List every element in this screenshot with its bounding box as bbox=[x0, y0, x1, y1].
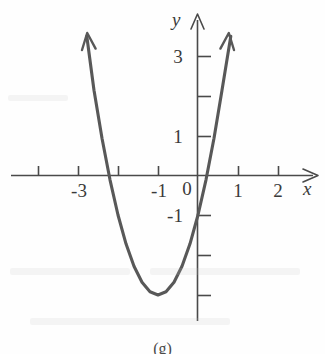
figure-parabola-graph: y x -3 -1 1 2 0 3 1 -1 (g) bbox=[0, 0, 325, 354]
graph-canvas bbox=[0, 0, 325, 354]
x-tick-label-minus1: -1 bbox=[144, 180, 174, 202]
origin-label: 0 bbox=[178, 178, 196, 200]
x-axis-ticks bbox=[39, 166, 279, 176]
parabola-curve bbox=[82, 33, 234, 295]
figure-caption: (g) bbox=[0, 340, 325, 354]
x-axis-label: x bbox=[303, 178, 311, 200]
x-tick-label-one: 1 bbox=[228, 180, 248, 202]
y-tick-label-minus1: -1 bbox=[160, 205, 190, 227]
x-tick-label-minus3: -3 bbox=[64, 180, 94, 202]
y-axis bbox=[191, 14, 204, 321]
y-axis-label: y bbox=[172, 9, 180, 31]
y-tick-label-three: 3 bbox=[168, 46, 188, 68]
y-tick-label-one: 1 bbox=[168, 126, 188, 148]
x-tick-label-two: 2 bbox=[268, 180, 288, 202]
